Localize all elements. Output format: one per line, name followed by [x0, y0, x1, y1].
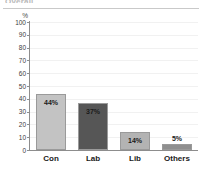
bar-lib: 14% — [120, 132, 150, 150]
bar-value-label: 37% — [79, 108, 107, 116]
bar-value-label: 14% — [121, 137, 149, 145]
y-axis-tick-label: 0 — [2, 147, 26, 154]
y-axis-tick-mark — [27, 99, 29, 100]
gridline — [30, 35, 198, 36]
y-axis-tick-mark — [27, 86, 29, 87]
y-axis-tick-mark — [27, 35, 29, 36]
bar-value-label: 44% — [37, 99, 65, 107]
x-axis-category-lab: Lab — [72, 154, 114, 164]
x-axis-line — [29, 150, 198, 151]
y-axis-tick-label: 100 — [2, 19, 26, 26]
cut-off-title: Overall — [5, 0, 34, 3]
y-axis-line — [29, 21, 30, 151]
y-axis-tick-label: 80 — [2, 44, 26, 51]
gridline — [30, 48, 198, 49]
bar-chart: % 44%37%14%5% 1009080706050403020100ConL… — [0, 10, 202, 170]
header-divider — [3, 8, 199, 9]
y-axis-tick-label: 60 — [2, 70, 26, 77]
y-axis-tick-mark — [27, 48, 29, 49]
gridline — [30, 60, 198, 61]
y-axis-tick-mark — [27, 60, 29, 61]
y-axis-tick-mark — [27, 124, 29, 125]
y-axis-tick-label: 10 — [2, 134, 26, 141]
gridline — [30, 22, 198, 23]
header-strip: Overall — [0, 0, 202, 10]
y-axis-tick-label: 50 — [2, 83, 26, 90]
y-axis-tick-mark — [27, 150, 29, 151]
bar-value-label: 5% — [163, 135, 191, 143]
bar-con: 44% — [36, 94, 66, 150]
gridline — [30, 86, 198, 87]
y-axis-tick-label: 30 — [2, 108, 26, 115]
bar-lab: 37% — [78, 103, 108, 150]
plot-area: 44%37%14%5% — [30, 22, 198, 150]
x-axis-category-con: Con — [30, 154, 72, 164]
x-axis-category-others: Others — [156, 154, 198, 164]
y-axis-tick-label: 70 — [2, 57, 26, 64]
x-axis-category-lib: Lib — [114, 154, 156, 164]
y-axis-tick-mark — [27, 73, 29, 74]
gridline — [30, 73, 198, 74]
y-axis-tick-label: 90 — [2, 31, 26, 38]
y-axis-tick-mark — [27, 112, 29, 113]
y-axis-tick-label: 40 — [2, 95, 26, 102]
y-axis-tick-mark — [27, 137, 29, 138]
y-axis-tick-label: 20 — [2, 121, 26, 128]
y-axis-tick-mark — [27, 22, 29, 23]
